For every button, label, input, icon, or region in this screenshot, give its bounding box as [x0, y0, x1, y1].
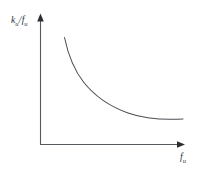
figure-container: ku/fu fu: [0, 0, 203, 176]
data-curve-series-1: [65, 38, 184, 120]
x-axis-label-subscript: u: [183, 157, 186, 164]
x-axis-label: fu: [180, 153, 186, 164]
y-axis-label: ku/fu: [11, 16, 28, 27]
y-axis-arrow-icon: [37, 14, 44, 22]
plot-area: [0, 0, 203, 176]
x-axis-arrow-icon: [177, 141, 185, 147]
y-axis-label-denominator-subscript: u: [24, 20, 27, 27]
